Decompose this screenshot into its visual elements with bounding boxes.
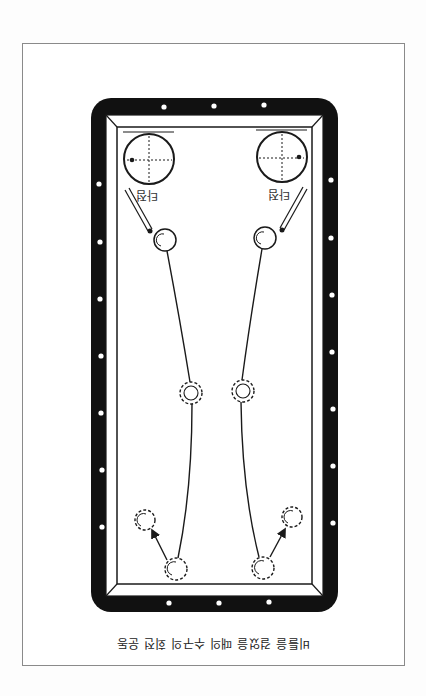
- hit-point-dot-icon: [297, 155, 302, 160]
- rebound-ball: [282, 507, 302, 527]
- diamond-icon: [97, 296, 102, 301]
- cushion-ball: [252, 557, 274, 579]
- diamond-icon: [97, 239, 102, 244]
- diamond-icon: [99, 467, 104, 472]
- diamond-icon: [261, 102, 266, 107]
- diamond-icon: [99, 524, 104, 529]
- diamond-icon: [330, 463, 335, 468]
- rebound-ball: [135, 510, 155, 530]
- diamond-icon: [216, 600, 221, 605]
- cue-ball-start: [154, 229, 176, 251]
- caption-text: 비틀을 걸었을 때의 수구의 회전 운동: [116, 636, 310, 653]
- right-hit-point-label: 타점: [268, 187, 290, 204]
- diamond-icon: [328, 177, 333, 182]
- diamond-icon: [96, 181, 101, 186]
- mid-ball: [180, 382, 202, 404]
- diamond-icon: [329, 349, 334, 354]
- diamond-icon: [211, 103, 216, 108]
- diamond-icon: [266, 599, 271, 604]
- hit-point-dot-icon: [130, 158, 135, 163]
- billiard-table-diagram: [0, 0, 426, 696]
- diamond-icon: [98, 353, 103, 358]
- diamond-icon: [329, 292, 334, 297]
- diamond-icon: [330, 406, 335, 411]
- diamond-icon: [328, 235, 333, 240]
- cue-ball-start: [254, 227, 276, 249]
- diamond-icon: [98, 410, 103, 415]
- table-frame: [91, 98, 338, 612]
- figure-caption: 비틀을 걸었을 때의 수구의 회전 운동: [0, 636, 426, 653]
- diamond-icon: [330, 520, 335, 525]
- diamond-icon: [166, 600, 171, 605]
- diamond-icon: [161, 104, 166, 109]
- cushion-ball: [165, 558, 187, 580]
- mid-ball: [232, 380, 254, 402]
- figure-page: 타점 타점 비틀을 걸었을 때의 수구의 회전 운동: [0, 0, 426, 696]
- left-hit-point-label: 타점: [136, 188, 158, 205]
